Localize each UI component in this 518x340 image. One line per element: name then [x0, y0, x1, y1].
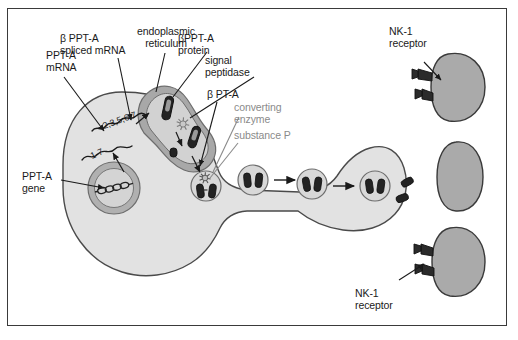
peptide-capsule-icon [208, 184, 217, 199]
peptide-capsule-icon [243, 173, 251, 188]
leader-beta-ppt-a-protein [173, 52, 207, 97]
label-substance-p: substance P [234, 130, 291, 142]
vesicle-membrane [360, 171, 390, 201]
receptor-prong-icon [415, 89, 422, 99]
label-beta-pt-a: β PT-A [207, 89, 239, 101]
receptor-prong-icon [418, 69, 432, 81]
vesicle-2 [238, 165, 268, 195]
label-signal-peptidase: signal peptidase [205, 55, 250, 78]
nucleus [88, 162, 140, 214]
vesicle-membrane [297, 169, 327, 199]
target-cell-top [412, 53, 485, 121]
target-cell-middle [437, 142, 483, 211]
nk1-receptor-prongs-top [412, 69, 433, 101]
target-cell-bottom [414, 227, 485, 296]
peptide-capsule-icon [196, 184, 205, 199]
receptor-prong-icon [412, 69, 418, 79]
leader-converting-enzyme [213, 117, 239, 172]
label-converting-enzyme: converting enzyme [234, 102, 281, 125]
label-ppt-a-gene: PPT-A gene [22, 171, 52, 194]
vesicle-1 [191, 171, 221, 201]
label-nk1-receptor-top: NK-1 receptor [389, 26, 427, 49]
label-nk1-receptor-bottom: NK-1 receptor [355, 288, 393, 311]
receptor-prong-icon [414, 244, 421, 254]
receptor-prong-icon [421, 244, 433, 256]
label-beta-ppt-a-protein: βPPT-A protein [178, 33, 214, 56]
target-cell-body [437, 142, 483, 211]
vesicle-membrane [238, 165, 268, 195]
peptide-capsule-icon [255, 173, 263, 188]
target-cell-body [431, 53, 485, 121]
nk1-receptor-prongs-bottom [414, 244, 434, 276]
cleaved-signal-peptide [170, 148, 177, 157]
vesicle-4 [360, 171, 390, 201]
target-cell-body [432, 227, 485, 296]
vesicle-3 [297, 169, 327, 199]
label-beta-ppt-a-spliced-mrna: β PPT-A spliced mRNA [60, 33, 125, 56]
figure-canvas: 2,3,5,6,7 1-7 [0, 0, 518, 340]
